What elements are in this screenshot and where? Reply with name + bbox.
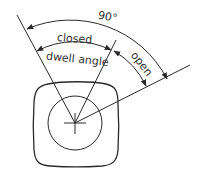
dwell-angle-label: dwell angle bbox=[45, 50, 109, 70]
open-label: open bbox=[128, 49, 155, 79]
cam-outline bbox=[33, 82, 119, 167]
total-angle-label: 90° bbox=[97, 9, 118, 25]
closed-label: closed bbox=[57, 31, 93, 46]
open-end-line bbox=[75, 65, 190, 123]
dwell-angle-diagram: 90° closed dwell angle open bbox=[0, 0, 202, 174]
